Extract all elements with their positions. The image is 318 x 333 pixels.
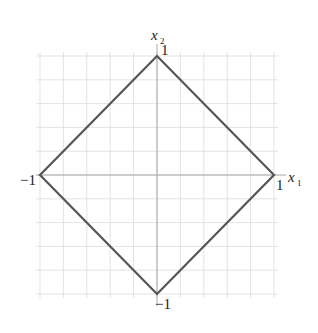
x-axis-label: x [287,169,295,185]
x-tick-positive: 1 [276,177,284,193]
y-tick-negative: −1 [155,296,171,312]
y-axis-label: x [150,27,158,43]
x-tick-negative: −1 [20,172,36,188]
axes [36,44,286,306]
y-tick-positive: 1 [161,42,169,58]
l1-norm-diagram: x 1 1 −1 x 2 1 −1 [0,0,318,333]
x-axis-label-subscript: 1 [297,178,302,188]
